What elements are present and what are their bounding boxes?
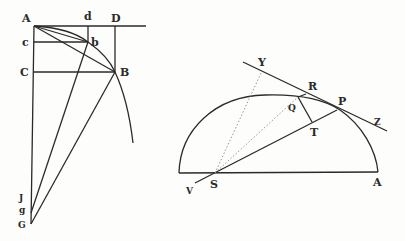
axis-line-SA — [179, 172, 378, 173]
label-V: V — [185, 186, 194, 196]
diagram-svg: A d D c b C B J g G — [0, 0, 405, 241]
label-A-right: A — [372, 176, 382, 189]
label-c: c — [22, 36, 29, 49]
label-b: b — [91, 36, 99, 49]
diagram-canvas: A d D c b C B J g G — [0, 0, 405, 241]
right-labels: Y R Q P Z T V S A — [185, 56, 382, 196]
label-P: P — [338, 95, 346, 108]
line-QT — [298, 97, 312, 122]
label-Z: Z — [374, 117, 381, 127]
label-J: J — [18, 193, 23, 203]
curve-arc — [34, 26, 133, 143]
left-figure — [31, 26, 146, 224]
right-dotted — [215, 71, 298, 173]
label-D: D — [111, 12, 121, 25]
label-T: T — [310, 126, 319, 139]
line-bg — [31, 42, 88, 213]
label-S: S — [210, 178, 218, 191]
label-g: g — [19, 205, 26, 215]
label-Q: Q — [288, 103, 296, 113]
chord-AB — [34, 26, 115, 72]
left-labels: A d D c b C B J g G — [18, 10, 129, 230]
chord-Ab — [34, 26, 88, 42]
dotted-SY — [215, 71, 262, 173]
label-d: d — [84, 10, 92, 23]
label-G: G — [18, 220, 26, 230]
ellipse-arc — [179, 95, 378, 173]
label-A-left: A — [21, 12, 31, 25]
dotted-SQ — [215, 97, 298, 173]
line-vertical-AG — [31, 26, 34, 224]
line-BG — [31, 72, 115, 224]
right-figure — [179, 62, 387, 183]
label-B: B — [120, 66, 129, 79]
label-C: C — [20, 66, 29, 79]
label-Y: Y — [257, 56, 266, 69]
label-R: R — [308, 80, 318, 93]
